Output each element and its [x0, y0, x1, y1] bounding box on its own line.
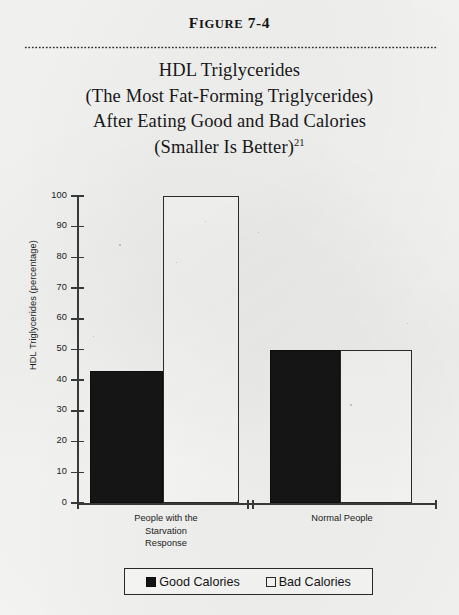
bar-chart: HDL Triglycerides (percentage) 010203040…: [0, 0, 459, 615]
y-axis-tick-label-60: 60: [33, 312, 67, 322]
legend-label-bad-calories: Bad Calories: [279, 575, 351, 589]
y-axis-tick-70: [71, 287, 84, 289]
legend-swatch-open-square-icon: [266, 577, 276, 587]
category-label-0: People with theStarvationResponse: [86, 512, 246, 550]
category-label-0-line-1: Starvation: [86, 525, 246, 538]
y-axis-tick-label-20: 20: [33, 435, 67, 445]
bar-good-calories-1: [270, 350, 340, 504]
y-axis-tick-60: [71, 318, 84, 320]
y-axis-tick-80: [71, 257, 84, 259]
y-axis-tick-40: [71, 379, 84, 381]
y-axis-tick-label-100: 100: [33, 190, 67, 200]
y-axis-tick-100: [71, 195, 84, 197]
y-axis-tick-30: [71, 410, 84, 412]
legend-swatch-filled-square-icon: [146, 577, 156, 587]
y-axis-tick-label-30: 30: [33, 404, 67, 414]
x-axis-line: [77, 503, 435, 505]
legend-label-good-calories: Good Calories: [159, 575, 240, 589]
x-axis-tick-1-0: [252, 500, 254, 509]
bar-bad-calories-1: [340, 350, 412, 504]
category-label-1-line-0: Normal People: [266, 512, 418, 525]
y-axis-tick-label-50: 50: [33, 343, 67, 353]
bar-good-calories-0: [90, 371, 163, 503]
y-axis-tick-label-70: 70: [33, 282, 67, 292]
y-axis-tick-label-80: 80: [33, 251, 67, 261]
legend-entry-bad-calories[interactable]: Bad Calories: [266, 575, 351, 589]
y-axis-tick-label-10: 10: [33, 466, 67, 476]
y-axis-tick-90: [71, 226, 84, 228]
y-axis-title: HDL Triglycerides (percentage): [28, 210, 38, 400]
chart-legend: Good Calories Bad Calories: [124, 568, 373, 595]
x-axis-tick-0-0: [77, 500, 79, 509]
y-axis-tick-50: [71, 349, 84, 351]
x-axis-tick-1-1: [435, 500, 437, 509]
category-label-0-line-2: Response: [86, 537, 246, 550]
bar-bad-calories-0: [163, 196, 239, 503]
scan-speck-4: [350, 404, 352, 406]
y-axis-tick-10: [71, 472, 84, 474]
category-label-1: Normal People: [266, 512, 418, 525]
y-axis-tick-label-90: 90: [33, 220, 67, 230]
category-label-0-line-0: People with the: [86, 512, 246, 525]
legend-entry-good-calories[interactable]: Good Calories: [146, 575, 240, 589]
scan-speck-0: [119, 244, 121, 246]
y-axis-tick-label-40: 40: [33, 374, 67, 384]
y-axis-tick-label-0: 0: [33, 497, 67, 507]
x-axis-tick-0-1: [247, 500, 249, 509]
y-axis-tick-20: [71, 441, 84, 443]
